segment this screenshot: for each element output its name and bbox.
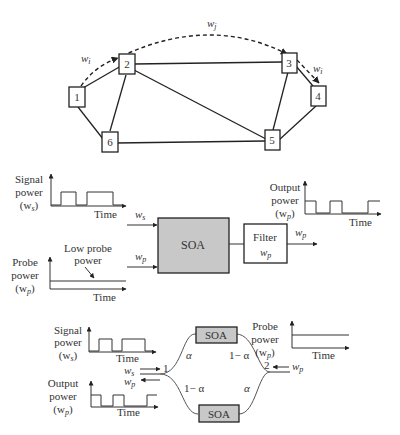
svg-text:5: 5 [269, 134, 275, 146]
node-3: 3 [282, 53, 297, 73]
svg-text:(wp): (wp) [15, 282, 35, 296]
mzi-output-waveform [91, 395, 157, 406]
svg-text:power: power [11, 269, 39, 281]
svg-text:Time: Time [349, 216, 372, 228]
probe-label: Probe [12, 256, 38, 268]
svg-text:SOA: SOA [208, 408, 230, 420]
wp-output-label: wp [295, 226, 306, 240]
node-1: 1 [69, 87, 85, 107]
mzi-output-label: Output [48, 377, 79, 389]
svg-text:3: 3 [286, 57, 292, 69]
link-6-5 [116, 141, 265, 143]
svg-text:Time: Time [116, 352, 139, 364]
svg-text:Time: Time [94, 208, 117, 220]
signal-waveform [51, 192, 122, 205]
low-probe-pointer [85, 267, 94, 278]
link-3-4 [296, 66, 313, 86]
wj-label: wj [207, 17, 217, 31]
link-4-5 [279, 106, 316, 140]
svg-text:(wp): (wp) [53, 403, 73, 417]
svg-text:(ws): (ws) [59, 349, 78, 363]
svg-text:power: power [54, 336, 82, 348]
svg-text:Time: Time [117, 406, 140, 418]
port-2-label: 2 [264, 359, 270, 371]
mzi-signal-label: Signal [54, 324, 82, 336]
svg-text:SOA: SOA [181, 238, 205, 252]
svg-text:(wp): (wp) [255, 346, 275, 360]
link-3-5 [273, 72, 288, 130]
svg-text:6: 6 [107, 136, 113, 148]
svg-text:power: power [251, 333, 279, 345]
wavelength-conversion-figure: wi wj wi 1 2 3 4 5 6 Signal power (ws) T… [0, 0, 400, 435]
node-5: 5 [265, 130, 280, 150]
lightpath-wj-2-3 [122, 35, 287, 56]
low-probe-label: Low probe [64, 242, 112, 254]
output-label: Output [270, 181, 301, 193]
svg-text:power: power [74, 254, 102, 266]
svg-text:1: 1 [74, 91, 80, 103]
network-topology: wi wj wi 1 2 3 4 5 6 [69, 17, 326, 152]
wi-label-right: wi [313, 62, 323, 76]
svg-text:power: power [49, 390, 77, 402]
link-2-5 [134, 70, 266, 139]
output-waveform [305, 201, 380, 213]
node-4: 4 [311, 86, 326, 106]
svg-text:SOA: SOA [205, 329, 227, 341]
svg-text:power: power [15, 186, 43, 198]
one-minus-alpha-upper-right: 1− α [229, 349, 249, 361]
svg-text:(ws): (ws) [20, 199, 39, 213]
mzi-probe-label: Probe [252, 320, 278, 332]
link-2-6 [110, 75, 126, 131]
svg-text:Filter: Filter [253, 231, 277, 243]
node-6: 6 [102, 132, 118, 152]
signal-label: Signal [15, 173, 43, 185]
ws-input-label: ws [135, 208, 145, 222]
svg-text:Time: Time [93, 291, 116, 303]
lower-arm-left [160, 374, 198, 414]
wi-label-left: wi [81, 52, 91, 66]
svg-text:4: 4 [315, 90, 321, 102]
link-2-3 [134, 62, 282, 64]
xgm-soa-diagram: Signal power (ws) Time Low probe power P… [11, 173, 381, 303]
node-2: 2 [119, 54, 135, 74]
svg-text:power: power [271, 194, 299, 206]
wp-input-label: wp [135, 250, 146, 264]
one-minus-alpha-lower-left: 1− α [184, 382, 204, 394]
svg-text:Time: Time [312, 349, 335, 361]
svg-text:(wp): (wp) [275, 207, 295, 221]
svg-text:2: 2 [124, 58, 130, 70]
mzi-wp-right-label: wp [292, 360, 303, 374]
alpha-lower-right: α [244, 382, 250, 394]
link-1-2 [83, 66, 121, 88]
link-1-6 [78, 107, 103, 139]
mzi-soa-diagram: Signal power (ws) Time Output power (wp)… [48, 320, 349, 422]
mzi-signal-waveform [89, 339, 152, 351]
alpha-upper-left: α [186, 349, 192, 361]
